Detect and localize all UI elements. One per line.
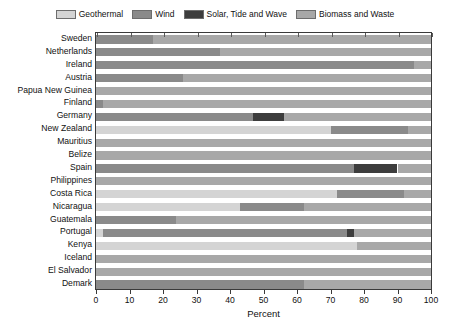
bar-segment[interactable] [96, 126, 331, 134]
legend-label: Biomass and Waste [319, 10, 394, 19]
bar-row[interactable] [96, 242, 431, 250]
bar-segment[interactable] [96, 216, 176, 224]
bar-segment[interactable] [96, 35, 153, 43]
x-tick-mark-top [231, 33, 232, 37]
x-tick-mark [297, 290, 298, 294]
plot-area [95, 32, 432, 290]
x-tick-label: 40 [225, 295, 235, 305]
bar-segment[interactable] [96, 203, 240, 211]
x-tick-mark [431, 290, 432, 294]
bar-row[interactable] [96, 280, 431, 288]
bar-segment[interactable] [96, 268, 431, 276]
stacked-bar-chart: GeothermalWindSolar, Tide and WaveBiomas… [0, 0, 450, 329]
bar-segment[interactable] [240, 203, 304, 211]
bar-segment[interactable] [96, 74, 183, 82]
bar-row[interactable] [96, 151, 431, 159]
bar-segment[interactable] [337, 190, 404, 198]
bar-row[interactable] [96, 126, 431, 134]
bar-segment[interactable] [96, 190, 337, 198]
bar-row[interactable] [96, 190, 431, 198]
bar-segment[interactable] [96, 229, 103, 237]
x-tick-mark-top [97, 33, 98, 37]
bar-segment[interactable] [153, 35, 431, 43]
bar-segment[interactable] [96, 61, 414, 69]
y-axis-label: Kenya [0, 240, 92, 249]
bar-row[interactable] [96, 87, 431, 95]
bar-segment[interactable] [414, 61, 431, 69]
bar-segment[interactable] [404, 190, 431, 198]
bar-row[interactable] [96, 48, 431, 56]
bar-row[interactable] [96, 61, 431, 69]
bar-segment[interactable] [253, 113, 283, 121]
y-axis-label: New Zealand [0, 124, 92, 133]
bar-segment[interactable] [96, 164, 354, 172]
bar-segment[interactable] [398, 164, 432, 172]
bar-segment[interactable] [331, 126, 408, 134]
y-axis-label: Mauritius [0, 137, 92, 146]
x-tick-label: 100 [424, 295, 438, 305]
x-axis-title: Percent [95, 308, 432, 319]
bar-segment[interactable] [96, 113, 253, 121]
bar-segment[interactable] [103, 100, 431, 108]
y-axis-label: Finland [0, 98, 92, 107]
bar-segment[interactable] [96, 151, 431, 159]
bars-container [96, 33, 431, 289]
y-axis-label: Iceland [0, 253, 92, 262]
x-tick-mark [96, 290, 97, 294]
bar-segment[interactable] [96, 255, 431, 263]
bar-row[interactable] [96, 100, 431, 108]
bar-segment[interactable] [96, 177, 431, 185]
bar-row[interactable] [96, 216, 431, 224]
bar-row[interactable] [96, 113, 431, 121]
y-axis-label: Papua New Guinea [0, 86, 92, 95]
bar-segment[interactable] [96, 280, 304, 288]
legend-swatch-wind [132, 10, 152, 19]
bar-segment[interactable] [304, 280, 431, 288]
y-axis-label: Austria [0, 73, 92, 82]
x-tick-label: 60 [292, 295, 302, 305]
x-tick-mark [364, 290, 365, 294]
bar-segment[interactable] [220, 48, 431, 56]
x-tick-mark [130, 290, 131, 294]
legend-entry[interactable]: Solar, Tide and Wave [184, 10, 287, 19]
legend-entry[interactable]: Wind [132, 10, 174, 19]
bar-row[interactable] [96, 177, 431, 185]
bar-segment[interactable] [408, 126, 431, 134]
x-tick-label: 80 [359, 295, 369, 305]
bar-segment[interactable] [354, 229, 431, 237]
y-axis-label: Guatemala [0, 215, 92, 224]
x-tick-mark [197, 290, 198, 294]
bar-segment[interactable] [176, 216, 431, 224]
x-tick-mark-top [432, 33, 433, 37]
legend-entry[interactable]: Biomass and Waste [296, 10, 394, 19]
bar-segment[interactable] [96, 100, 103, 108]
legend-entry[interactable]: Geothermal [56, 10, 123, 19]
x-tick-mark [398, 290, 399, 294]
bar-row[interactable] [96, 229, 431, 237]
bar-row[interactable] [96, 35, 431, 43]
legend-label: Solar, Tide and Wave [207, 10, 287, 19]
bar-segment[interactable] [96, 87, 431, 95]
bar-segment[interactable] [96, 48, 220, 56]
bar-row[interactable] [96, 203, 431, 211]
bar-row[interactable] [96, 139, 431, 147]
x-tick-mark-top [131, 33, 132, 37]
bar-segment[interactable] [183, 74, 431, 82]
bar-segment[interactable] [357, 242, 431, 250]
bar-segment[interactable] [304, 203, 431, 211]
y-axis-label: Ireland [0, 60, 92, 69]
bar-segment[interactable] [103, 229, 348, 237]
bar-row[interactable] [96, 268, 431, 276]
bar-row[interactable] [96, 74, 431, 82]
x-tick-mark-top [332, 33, 333, 37]
chart-legend: GeothermalWindSolar, Tide and WaveBiomas… [0, 10, 450, 19]
bar-segment[interactable] [96, 139, 431, 147]
y-axis-label: Sweden [0, 34, 92, 43]
bar-row[interactable] [96, 164, 431, 172]
y-axis-label: Philippines [0, 176, 92, 185]
bar-segment[interactable] [284, 113, 431, 121]
bar-row[interactable] [96, 255, 431, 263]
bar-segment[interactable] [96, 242, 357, 250]
bar-segment[interactable] [347, 229, 354, 237]
bar-segment[interactable] [354, 164, 398, 172]
